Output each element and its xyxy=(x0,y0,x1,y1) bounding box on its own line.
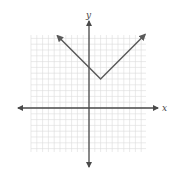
x-axis-label: x xyxy=(162,103,167,113)
absolute-value-line xyxy=(57,34,145,79)
y-axis-label: y xyxy=(85,10,92,20)
coordinate-plane: x y xyxy=(0,0,174,180)
